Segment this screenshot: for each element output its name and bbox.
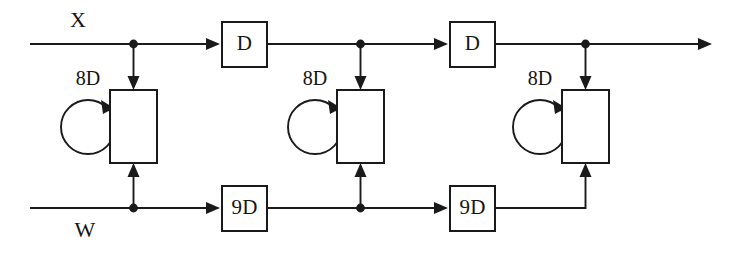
stage-1-group: 8D [61, 44, 157, 208]
stage-3-loop-label: 8D [528, 67, 552, 89]
junction-dot-top-tap-3 [581, 40, 590, 49]
stage-1-bottom-feed-arrow [128, 163, 140, 177]
delay-box-9d-2[interactable]: 9D [450, 186, 495, 231]
stage-2-loop-label: 8D [303, 67, 327, 89]
stage-3-group: 8D [513, 44, 609, 208]
delay-box-d-1[interactable]: D [222, 22, 267, 67]
stage-2-top-feed-arrow [355, 76, 367, 90]
stage-2-group: 8D [288, 44, 384, 208]
delay-box-9d-1[interactable]: 9D [222, 186, 267, 231]
delay-box-d-1-label: D [237, 31, 252, 55]
input-label-x: X [70, 7, 86, 32]
bottom-line-arrow-into-delay-9d-1 [206, 202, 220, 214]
top-line-arrow-into-delay-d-2 [434, 38, 448, 50]
diagram-canvas: D D 9D 9D [0, 0, 730, 254]
junction-dot-top-tap-2 [356, 40, 365, 49]
delay-box-9d-2-label: 9D [459, 195, 485, 219]
delay-box-d-2[interactable]: D [450, 22, 495, 67]
stage-1-top-feed-arrow [128, 76, 140, 90]
stage-2-processor-box[interactable] [337, 90, 384, 163]
bottom-line-arrow-into-delay-9d-2 [434, 202, 448, 214]
top-line-arrow-into-delay-d-1 [206, 38, 220, 50]
top-line-output-arrow [698, 38, 712, 50]
stage-1-loop-label: 8D [76, 67, 100, 89]
input-label-w: W [75, 217, 96, 242]
delay-box-d-2-label: D [465, 31, 480, 55]
stage-1-processor-box[interactable] [110, 90, 157, 163]
junction-dot-bottom-wtap-1 [129, 204, 138, 213]
stage-3-top-feed-arrow [580, 76, 592, 90]
delay-box-9d-1-label: 9D [231, 195, 257, 219]
junction-dot-bottom-wtap-2 [356, 204, 365, 213]
junction-dot-top-tap-1 [129, 40, 138, 49]
signal-flow-diagram: D D 9D 9D [0, 0, 730, 254]
stage-3-bottom-feed-arrow [580, 163, 592, 177]
stage-3-processor-box[interactable] [562, 90, 609, 163]
stage-2-bottom-feed-arrow [355, 163, 367, 177]
